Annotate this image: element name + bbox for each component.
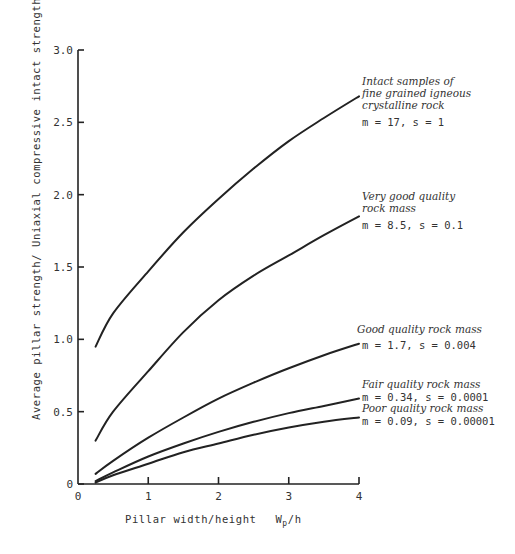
svg-text:Average pillar strength/ Uniax: Average pillar strength/ Uniaxial compre… xyxy=(30,0,42,420)
y-tick-label: 0 xyxy=(66,478,73,491)
curve-series-5 xyxy=(96,418,359,483)
annotation-5: Poor quality rock massm = 0.09, s = 0.00… xyxy=(361,402,495,427)
pillar-strength-chart: 00.51.01.52.02.53.001234 Intact samples … xyxy=(0,0,515,554)
y-axis-title: Average pillar strength/ Uniaxial compre… xyxy=(30,0,42,420)
annotation-label: Good quality rock mass xyxy=(357,323,483,335)
y-tick-label: 0.5 xyxy=(53,406,73,419)
curve-annotations: Intact samples offine grained igneouscry… xyxy=(357,75,495,427)
x-tick-label: 3 xyxy=(285,490,292,503)
curves xyxy=(96,96,359,482)
y-tick-label: 2.5 xyxy=(53,116,73,129)
y-axis-title-text: Average pillar strength/ Uniaxial compre… xyxy=(30,0,42,420)
x-tick-label: 2 xyxy=(215,490,222,503)
y-tick-label: 1.0 xyxy=(53,333,73,346)
y-tick-label: 1.5 xyxy=(53,261,73,274)
svg-text:Pillar width/height Wp/h: Pillar width/height Wp/h xyxy=(125,513,302,528)
annotation-4: Fair quality rock massm = 0.34, s = 0.00… xyxy=(361,378,488,403)
annotation-label: Fair quality rock mass xyxy=(361,378,481,390)
annotation-2: Very good qualityrock massm = 8.5, s = 0… xyxy=(362,190,463,231)
annotation-label: Intact samples of xyxy=(361,75,456,87)
annotation-1: Intact samples offine grained igneouscry… xyxy=(361,75,472,128)
x-axis-title-text: Pillar width/height xyxy=(125,513,257,525)
y-tick-label: 2.0 xyxy=(53,189,73,202)
annotation-label: Poor quality rock mass xyxy=(361,402,484,414)
curve-series-3 xyxy=(96,344,359,474)
annotation-params: m = 8.5, s = 0.1 xyxy=(362,219,463,231)
x-tick-label: 0 xyxy=(75,490,82,503)
x-axis-symbol-tail: /h xyxy=(288,513,302,525)
annotation-3: Good quality rock massm = 1.7, s = 0.004 xyxy=(357,323,483,351)
annotation-label: fine grained igneous xyxy=(361,87,472,99)
annotation-label: Very good quality xyxy=(362,190,456,202)
annotation-params: m = 0.09, s = 0.00001 xyxy=(362,415,495,427)
annotation-label: rock mass xyxy=(362,202,417,214)
annotation-params: m = 1.7, s = 0.004 xyxy=(362,339,476,351)
y-tick-label: 3.0 xyxy=(53,44,73,57)
x-tick-label: 1 xyxy=(145,490,152,503)
annotation-label: crystalline rock xyxy=(362,99,445,111)
x-axis-title: Pillar width/height Wp/h xyxy=(125,513,302,528)
annotation-params: m = 17, s = 1 xyxy=(362,116,444,128)
curve-series-1 xyxy=(96,96,359,346)
x-tick-label: 4 xyxy=(356,490,363,503)
